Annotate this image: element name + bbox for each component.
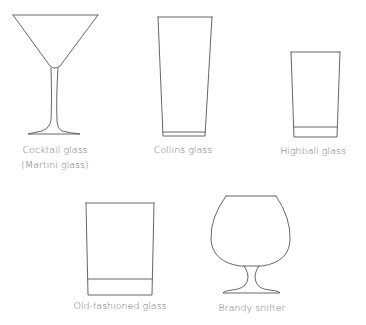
collins-glass-icon <box>158 17 212 136</box>
old-fashioned-glass-label: Old-fashioned glass <box>73 298 166 313</box>
brandy-snifter-icon <box>211 196 290 293</box>
brandy-snifter-label: Brandy snifter <box>219 300 286 315</box>
highball-glass-icon <box>291 52 340 137</box>
cocktail-glass-label: Cocktail glass <box>22 142 87 157</box>
old-fashioned-glass-icon <box>86 203 154 295</box>
highball-glass-label: Highball glass <box>280 143 346 158</box>
martini-glass-sublabel: (Martini glass) <box>21 157 88 172</box>
collins-glass-label: Collins glass <box>154 142 212 157</box>
cocktail-glass-icon <box>13 15 98 134</box>
